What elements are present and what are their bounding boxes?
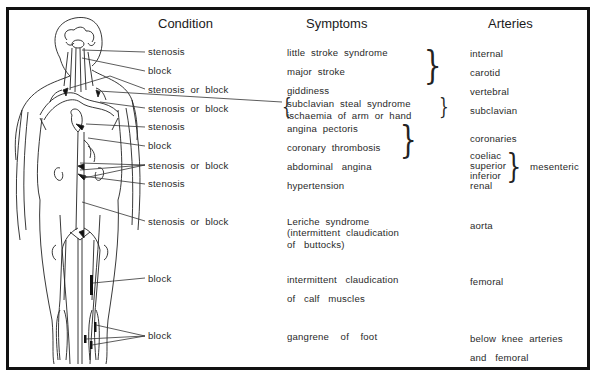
symptom-ischaemia-arm: ischaemia of arm or hand (287, 110, 412, 121)
symptom-coronary-thrombosis: coronary thrombosis (287, 142, 381, 153)
artery-internal: internal (470, 48, 503, 59)
brace-mesenteric: } (506, 148, 521, 182)
symptom-leriche-line3: of buttocks) (287, 239, 345, 250)
symptom-angina-pectoris: angina pectoris (287, 123, 358, 134)
symptom-gangrene: gangrene of foot (287, 331, 377, 342)
header-condition: Condition (158, 16, 213, 31)
condition-label: stenosis or block (148, 84, 229, 95)
artery-coronaries: coronaries (470, 133, 517, 144)
header-symptoms: Symptoms (306, 16, 367, 31)
symptom-giddiness: giddiness (287, 85, 329, 96)
artery-subclavian: subclavian (470, 105, 517, 116)
condition-label: stenosis or block (148, 216, 229, 227)
symptom-leriche-line2: (intermittent claudication (287, 227, 399, 238)
symptom-little-stroke: little stroke syndrome (287, 47, 388, 58)
condition-label: stenosis or block (148, 160, 229, 171)
header-arteries: Arteries (488, 16, 533, 31)
symptom-major-stroke: major stroke (287, 66, 345, 77)
brace-coronary-group: } (400, 120, 417, 158)
brace-subclavian-right: } (439, 96, 449, 118)
artery-below-knee-line2: and femoral (470, 352, 529, 363)
symptom-subclavian-steal: subclavian steal syndrome (287, 98, 411, 109)
artery-carotid: carotid (470, 67, 500, 78)
brace-stroke-group: } (424, 44, 442, 84)
condition-label: stenosis (148, 46, 185, 57)
artery-mesenteric: mesenteric (530, 161, 579, 172)
symptom-abdominal-angina: abdominal angina (287, 161, 372, 172)
condition-label: stenosis or block (148, 103, 229, 114)
condition-label: block (148, 140, 171, 151)
condition-label: block (148, 65, 171, 76)
artery-femoral: femoral (470, 276, 503, 287)
artery-vertebral: vertebral (470, 86, 509, 97)
symptom-leriche-line1: Leriche syndrome (287, 216, 369, 227)
condition-label: stenosis (148, 178, 185, 189)
artery-aorta: aorta (470, 220, 493, 231)
symptom-hypertension: hypertension (287, 180, 344, 191)
condition-label: block (148, 330, 171, 341)
symptom-claudication-line2: of calf muscles (287, 293, 365, 304)
artery-below-knee-line1: below knee arteries (470, 333, 563, 344)
artery-renal: renal (470, 181, 492, 191)
condition-label: block (148, 273, 171, 284)
condition-label: stenosis (148, 121, 185, 132)
symptom-claudication-line1: intermittent claudication (287, 274, 399, 285)
